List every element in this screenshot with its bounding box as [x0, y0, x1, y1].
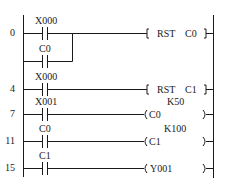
step-number: 11 [1, 136, 15, 146]
step-number: 4 [1, 84, 15, 94]
instruction-op: RST [157, 85, 175, 95]
contact-label-c1: C1 [39, 151, 51, 161]
instruction-operand: C0 [185, 29, 197, 39]
instruction-op: RST [157, 29, 175, 39]
contact-label-x000: X000 [35, 72, 57, 82]
coil-name: C1 [149, 137, 161, 147]
contact-label-c0: C0 [39, 124, 51, 134]
preset-value: K50 [167, 97, 184, 107]
contact-label-c0: C0 [39, 44, 51, 54]
step-number: 0 [1, 28, 15, 38]
coil-name: C0 [149, 110, 161, 120]
step-number: 7 [1, 109, 15, 119]
instruction-operand: C1 [185, 85, 197, 95]
contact-label-x001: X001 [35, 97, 57, 107]
step-number: 15 [1, 163, 15, 173]
preset-value: K100 [164, 124, 186, 134]
coil-name: Y001 [150, 164, 172, 174]
contact-label-x000: X000 [35, 16, 57, 26]
